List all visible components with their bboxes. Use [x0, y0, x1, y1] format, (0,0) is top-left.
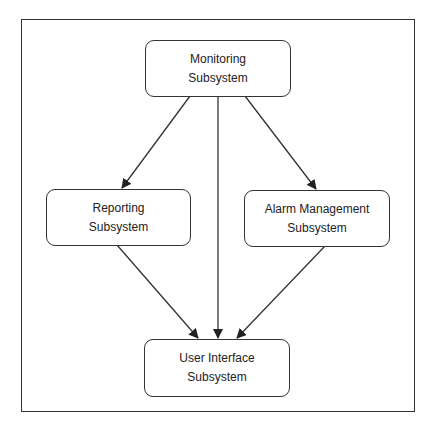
node-label-line1: Reporting: [92, 199, 144, 218]
edge-monitoring-alarm: [245, 96, 316, 189]
node-label-line1: User Interface: [179, 349, 254, 368]
node-label-line2: Subsystem: [89, 218, 148, 237]
edge-reporting-ui: [117, 245, 198, 338]
node-label-line1: Alarm Management: [265, 200, 370, 219]
node-user-interface-subsystem: User Interface Subsystem: [144, 339, 290, 397]
node-label-line2: Subsystem: [187, 368, 246, 387]
node-label-line2: Subsystem: [188, 69, 247, 88]
edge-monitoring-reporting: [122, 96, 190, 188]
node-alarm-management-subsystem: Alarm Management Subsystem: [244, 190, 390, 247]
node-label-line2: Subsystem: [287, 219, 346, 238]
node-reporting-subsystem: Reporting Subsystem: [46, 189, 191, 246]
node-label-line1: Monitoring: [190, 50, 246, 69]
node-monitoring-subsystem: Monitoring Subsystem: [145, 40, 291, 97]
edge-alarm-ui: [237, 246, 325, 338]
